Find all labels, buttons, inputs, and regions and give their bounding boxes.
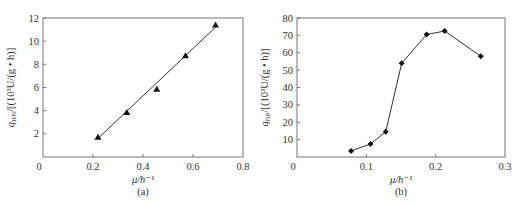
x-tick-label: 0.8 (236, 161, 249, 172)
triangle-marker (153, 86, 160, 92)
plot-frame (43, 18, 243, 157)
y-tick-label: 70 (283, 30, 294, 41)
y-tick-label: 30 (283, 99, 294, 110)
figure-caption: (b) (395, 186, 408, 198)
y-tick-label: 8 (34, 59, 39, 70)
y-label-subscript: NP (264, 112, 272, 121)
y-label-subscript: HN (10, 112, 18, 122)
y-tick-label: 60 (283, 47, 294, 58)
y-axis-label: qNP/[(10³U/(g • h)] (259, 48, 272, 126)
series-line (351, 31, 481, 151)
chart-b: 102030405060708000.10.20.3μ/h⁻¹(b)qNP/[(… (259, 13, 512, 199)
x-tick-label: 0 (290, 161, 295, 172)
x-tick-label: 0.4 (136, 161, 150, 172)
y-tick-label: 2 (34, 128, 39, 139)
y-tick-label: 40 (283, 82, 294, 93)
y-tick-label: 4 (34, 105, 40, 116)
figure: 2468101200.20.40.60.8μ/h⁻¹(a)qHN/[(10³U/… (0, 0, 523, 204)
y-tick-label: 10 (29, 36, 40, 47)
y-tick-label: 20 (283, 117, 294, 128)
plot-frame (297, 18, 505, 157)
y-label-unit: /[(10³U/(g • h)] (259, 48, 271, 112)
diamond-marker (478, 53, 484, 59)
y-label-unit: /[(10³U/(g • h)] (5, 48, 17, 112)
y-tick-label: 50 (283, 65, 294, 76)
x-tick-label: 0.1 (360, 161, 373, 172)
x-tick-label: 0.2 (429, 161, 442, 172)
fit-line (98, 27, 216, 138)
y-tick-label: 10 (283, 134, 294, 145)
x-tick-label: 0.6 (186, 161, 199, 172)
x-tick-label: 0.3 (498, 161, 511, 172)
x-tick-label: 0.2 (86, 161, 99, 172)
y-tick-label: 6 (34, 82, 39, 93)
y-tick-label: 12 (29, 13, 40, 24)
y-axis-label: qHN/[(10³U/(g • h)] (5, 48, 18, 127)
chart-a: 2468101200.20.40.60.8μ/h⁻¹(a)qHN/[(10³U/… (5, 13, 250, 199)
x-axis-label: μ/h⁻¹ (131, 174, 154, 185)
triangle-marker (123, 109, 130, 115)
triangle-marker (212, 21, 219, 27)
diamond-marker (348, 148, 354, 154)
x-tick-label: 0 (36, 161, 41, 172)
x-axis-label: μ/h⁻¹ (389, 174, 412, 185)
figure-caption: (a) (137, 186, 149, 198)
diamond-marker (442, 28, 448, 34)
y-tick-label: 80 (283, 13, 294, 24)
